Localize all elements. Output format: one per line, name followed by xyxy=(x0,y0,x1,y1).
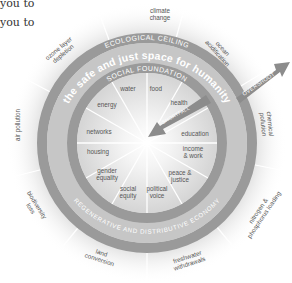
social-label-health: health xyxy=(170,99,188,106)
social-label-education: education xyxy=(181,130,209,137)
eco-label-climate-2: change xyxy=(150,14,171,22)
social-label-networks: networks xyxy=(86,128,111,135)
social-label-water: water xyxy=(119,85,135,92)
eco-label-climate-1: climate xyxy=(150,7,170,14)
eco-label-air-pollution: air pollution xyxy=(14,108,22,141)
social-label-food: food xyxy=(150,85,163,92)
social-label-income-2: & work xyxy=(183,152,203,159)
social-label-income-1: income xyxy=(183,145,204,152)
social-label-housing: housing xyxy=(87,148,110,156)
doughnut-diagram: ECOLOGICAL CEILING the safe and just spa… xyxy=(0,0,292,283)
social-label-peace-2: justice xyxy=(170,176,189,184)
social-label-gender-2: equality xyxy=(96,174,119,182)
social-label-political-2: voice xyxy=(150,192,165,199)
social-label-social-equity-1: social xyxy=(120,185,136,192)
social-label-energy: energy xyxy=(97,101,117,109)
social-label-social-equity-2: equity xyxy=(120,192,138,200)
